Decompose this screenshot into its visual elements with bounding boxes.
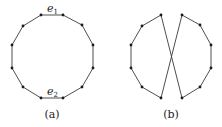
edge [23, 15, 41, 26]
edge [82, 25, 93, 45]
vertex [181, 14, 184, 17]
vertex [92, 67, 95, 70]
edge [23, 87, 41, 98]
edge [131, 26, 142, 45]
vertex [141, 25, 144, 28]
edge [63, 15, 82, 25]
edge [200, 68, 211, 87]
caption-b: (b) [163, 108, 179, 121]
edge [12, 68, 23, 87]
vertex [22, 25, 25, 28]
caption-a: (a) [44, 108, 59, 121]
edge [142, 87, 161, 98]
figure: e1 e2 (a) (b) [0, 0, 222, 127]
vertex [130, 67, 133, 70]
vertex [40, 14, 43, 17]
edge [131, 68, 142, 87]
vertex [199, 24, 202, 27]
vertex [92, 44, 95, 47]
panel-b-graph [130, 14, 213, 100]
vertex [40, 97, 43, 100]
edge [82, 68, 93, 87]
vertex [210, 44, 213, 47]
vertex [11, 67, 14, 70]
edge [63, 87, 82, 98]
vertex [141, 86, 144, 89]
vertex [160, 14, 163, 17]
edge [182, 15, 200, 25]
vertex [160, 97, 163, 100]
vertex [11, 44, 14, 47]
vertex [81, 86, 84, 89]
edge [12, 26, 23, 45]
vertex [62, 14, 65, 17]
vertex [181, 97, 184, 100]
vertex [199, 86, 202, 89]
vertex [210, 67, 213, 70]
edge-label-e1: e1 [47, 2, 58, 16]
edge [142, 15, 161, 26]
edge-label-e2: e2 [47, 85, 58, 99]
vertex [130, 44, 133, 47]
vertex [62, 97, 65, 100]
edge [200, 25, 211, 45]
vertex [22, 86, 25, 89]
edge [182, 87, 200, 98]
vertex [81, 24, 84, 27]
